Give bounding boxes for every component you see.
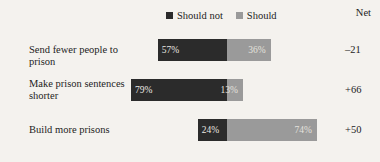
bar-segment-should[interactable]: 13%	[227, 79, 243, 101]
bar-segment-should-not[interactable]: 79%	[131, 79, 227, 101]
bar-value-should-not: 24%	[202, 125, 219, 135]
net-value: +50	[345, 124, 371, 135]
bar-group: 79% 13%	[0, 79, 380, 101]
bar-group: 24% 74%	[0, 119, 380, 141]
net-value: –21	[345, 44, 371, 55]
chart-row: Send fewer people to prison 57% 36% –21	[0, 39, 380, 61]
bar-value-should-not: 79%	[135, 85, 152, 95]
bar-segment-should[interactable]: 36%	[227, 39, 271, 61]
bar-segment-should-not[interactable]: 24%	[198, 119, 227, 141]
net-value: +66	[345, 84, 371, 95]
bar-value-should: 74%	[294, 125, 311, 135]
chart-rows: Send fewer people to prison 57% 36% –21 …	[0, 0, 380, 162]
bar-value-should: 13%	[220, 85, 237, 95]
bar-group: 57% 36%	[0, 39, 380, 61]
chart-row: Make prison sentences shorter 79% 13% +6…	[0, 79, 380, 101]
diverging-bar-chart: Should not Should Net Send fewer people …	[0, 0, 380, 162]
bar-value-should-not: 57%	[162, 45, 179, 55]
chart-row: Build more prisons 24% 74% +50	[0, 119, 380, 141]
bar-segment-should[interactable]: 74%	[227, 119, 317, 141]
bar-value-should: 36%	[248, 45, 265, 55]
bar-segment-should-not[interactable]: 57%	[158, 39, 227, 61]
